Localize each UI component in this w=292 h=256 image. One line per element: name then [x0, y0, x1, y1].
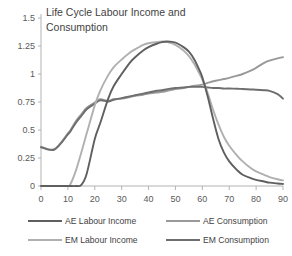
chart-title-line1: Life Cycle Labour Income and [46, 6, 186, 18]
y-axis-ticks: 00.250.50.7511.251.5 [17, 13, 41, 191]
x-tick-label: 80 [251, 194, 261, 204]
x-tick-label: 60 [197, 194, 207, 204]
series-line-ae-consumption [41, 57, 283, 150]
legend-label[interactable]: EM Consumption [203, 235, 269, 245]
x-axis-ticks: 0102030405060708090 [38, 186, 288, 204]
legend-label[interactable]: AE Consumption [203, 216, 268, 226]
y-tick-label: 1.25 [17, 41, 35, 51]
x-tick-label: 20 [90, 194, 100, 204]
x-tick-label: 30 [117, 194, 127, 204]
chart-container: Life Cycle Labour Income and Consumption… [0, 0, 292, 256]
x-tick-label: 0 [38, 194, 43, 204]
x-tick-label: 90 [278, 194, 288, 204]
legend-label[interactable]: EM Labour Income [65, 235, 138, 245]
y-tick-label: 0.5 [22, 125, 35, 135]
chart-title-line2: Consumption [46, 21, 108, 33]
y-tick-label: 0.25 [17, 153, 35, 163]
x-tick-label: 50 [170, 194, 180, 204]
series-line-em-labour-income [41, 42, 283, 187]
y-tick-label: 0.75 [17, 97, 35, 107]
chart-legend: AE Labour IncomeAE ConsumptionEM Labour … [28, 216, 269, 245]
series-paths [41, 42, 283, 187]
x-tick-label: 10 [63, 194, 73, 204]
x-tick-label: 70 [224, 194, 234, 204]
y-tick-label: 1 [30, 69, 35, 79]
y-tick-label: 1.5 [22, 13, 35, 23]
x-tick-label: 40 [144, 194, 154, 204]
y-tick-label: 0 [30, 181, 35, 191]
legend-label[interactable]: AE Labour Income [65, 216, 136, 226]
life-cycle-chart: Life Cycle Labour Income and Consumption… [0, 0, 292, 256]
